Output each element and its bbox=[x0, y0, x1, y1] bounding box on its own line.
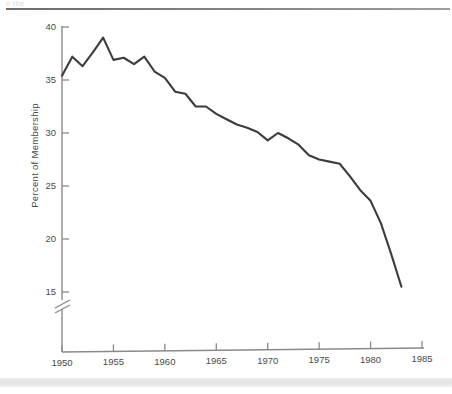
x-tick-label: 1970 bbox=[257, 355, 278, 366]
y-axis-title: Percent of Membership bbox=[29, 76, 40, 236]
x-tick-group: 19501955196019651970197519801985 bbox=[51, 341, 432, 368]
x-tick-label: 1980 bbox=[360, 354, 381, 365]
chart-page: n the 152025303540 195019551960196519701… bbox=[0, 0, 452, 394]
x-tick-label: 1965 bbox=[206, 355, 227, 366]
x-tick-label: 1975 bbox=[309, 354, 330, 365]
y-tick-label: 25 bbox=[45, 180, 56, 191]
data-line-series-0 bbox=[62, 38, 401, 287]
x-axis-line bbox=[62, 348, 424, 352]
y-tick-label: 20 bbox=[45, 233, 56, 244]
bottom-scan-band bbox=[0, 378, 452, 387]
y-tick-label: 35 bbox=[45, 74, 56, 85]
chart-svg: 152025303540 195019551960196519701975198… bbox=[0, 0, 452, 394]
y-tick-label: 30 bbox=[45, 127, 56, 138]
line-chart: 152025303540 195019551960196519701975198… bbox=[0, 0, 452, 394]
y-tick-label: 15 bbox=[45, 286, 56, 297]
x-tick-label: 1985 bbox=[411, 353, 432, 364]
x-tick-label: 1950 bbox=[51, 357, 72, 368]
x-tick-label: 1955 bbox=[103, 356, 124, 367]
y-tick-label: 40 bbox=[45, 21, 56, 32]
y-tick-group: 152025303540 bbox=[45, 21, 69, 297]
x-tick-label: 1960 bbox=[154, 356, 175, 367]
